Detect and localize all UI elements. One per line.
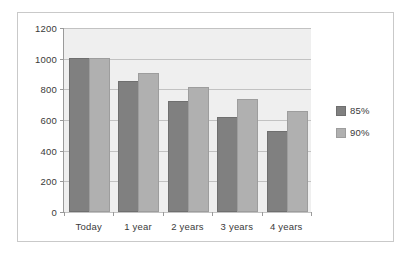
bar[interactable] [69, 58, 90, 212]
plot-area: 020040060080010001200 Today1 year2 years… [63, 28, 311, 213]
y-axis-tick-label: 1200 [35, 23, 57, 34]
bar[interactable] [138, 73, 159, 212]
gridline [64, 212, 311, 213]
y-axis-tick-label: 600 [41, 115, 57, 126]
bar[interactable] [168, 101, 189, 212]
legend-swatch-icon [336, 128, 346, 138]
y-tick-mark [60, 89, 64, 90]
y-axis-tick-label: 0 [52, 207, 57, 218]
chart-legend: 85% 90% [336, 105, 370, 149]
x-tick-mark [163, 212, 164, 216]
bar[interactable] [188, 87, 209, 212]
bar[interactable] [118, 81, 139, 212]
y-tick-mark [60, 28, 64, 29]
y-axis-tick-label: 800 [41, 84, 57, 95]
bar[interactable] [217, 117, 238, 212]
bar-group [65, 28, 114, 212]
bar[interactable] [267, 131, 288, 212]
legend-swatch-icon [336, 106, 346, 116]
bar[interactable] [287, 111, 308, 212]
x-axis-tick-label: 1 year [124, 221, 152, 232]
x-tick-mark [64, 212, 65, 216]
x-tick-mark [311, 212, 312, 216]
bar[interactable] [89, 58, 110, 212]
y-tick-mark [60, 120, 64, 121]
legend-label: 85% [350, 105, 370, 116]
legend-label: 90% [350, 127, 370, 138]
y-tick-mark [60, 59, 64, 60]
chart-frame: 020040060080010001200 Today1 year2 years… [17, 12, 394, 242]
y-axis-tick-label: 1000 [35, 53, 57, 64]
bar-group [114, 28, 163, 212]
bar-group [263, 28, 312, 212]
y-axis-tick-label: 200 [41, 176, 57, 187]
x-axis-tick-label: Today [76, 221, 102, 232]
legend-item[interactable]: 90% [336, 127, 370, 138]
bars-layer [65, 28, 312, 212]
x-tick-mark [262, 212, 263, 216]
y-tick-mark [60, 181, 64, 182]
legend-item[interactable]: 85% [336, 105, 370, 116]
y-tick-mark [60, 151, 64, 152]
x-tick-mark [212, 212, 213, 216]
bar-group [213, 28, 262, 212]
x-axis-tick-label: 4 years [270, 221, 303, 232]
bar-group [164, 28, 213, 212]
x-axis-tick-label: 2 years [171, 221, 204, 232]
x-tick-mark [113, 212, 114, 216]
x-axis-tick-label: 3 years [221, 221, 254, 232]
bar[interactable] [237, 99, 258, 212]
y-axis-tick-label: 400 [41, 145, 57, 156]
